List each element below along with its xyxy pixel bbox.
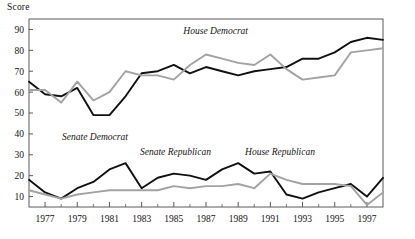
y-tick-label: 70 — [15, 67, 25, 77]
x-tick-label: 1977 — [36, 214, 55, 224]
x-tick-label: 1987 — [197, 214, 216, 224]
series-label-senate-democrat: Senate Democrat — [62, 132, 128, 142]
x-tick-label: 1983 — [132, 214, 151, 224]
x-tick-label: 1989 — [229, 214, 248, 224]
y-tick-label: 80 — [15, 46, 25, 56]
y-tick-label: 90 — [15, 25, 25, 35]
y-tick-label: 40 — [15, 129, 25, 139]
x-tick-label: 1979 — [68, 214, 87, 224]
y-tick-label: 30 — [15, 150, 25, 160]
x-tick-label: 1991 — [261, 214, 280, 224]
series-label-house-republican: House Republican — [244, 147, 315, 157]
x-tick-label: 1997 — [357, 214, 376, 224]
y-tick-label: 20 — [15, 171, 25, 181]
x-tick-label: 1985 — [164, 214, 183, 224]
y-tick-label: 60 — [15, 88, 25, 98]
plot-area: 1020304050607080901977197919811983198519… — [0, 0, 415, 239]
x-tick-label: 1993 — [293, 214, 312, 224]
y-tick-label: 10 — [15, 192, 25, 202]
series-label-house-democrat: House Democrat — [182, 26, 248, 36]
x-tick-label: 1981 — [100, 214, 119, 224]
y-tick-label: 50 — [15, 108, 25, 118]
line-chart: Score 1020304050607080901977197919811983… — [0, 0, 415, 239]
series-label-senate-republican: Senate Republican — [140, 147, 211, 157]
x-tick-label: 1995 — [325, 214, 344, 224]
